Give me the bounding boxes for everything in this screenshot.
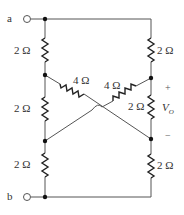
terminal-a	[24, 16, 31, 23]
wire-diag-right-a	[136, 78, 151, 86]
wire-crossover-hop	[92, 105, 102, 110]
label-resistor-left-mid: 2 Ω	[14, 103, 30, 114]
node-left-upper	[43, 73, 47, 77]
node-left-lower	[43, 139, 47, 143]
label-resistor-right-mid: 2 Ω	[128, 101, 144, 112]
resistor-right-top	[148, 38, 154, 62]
label-resistor-left-top: 2 Ω	[14, 45, 30, 56]
node-right-lower	[149, 137, 153, 141]
resistor-right-bot	[148, 154, 154, 178]
resistor-left-mid	[42, 97, 48, 121]
vo-plus-sign: +	[165, 83, 171, 93]
vo-label: VO	[162, 102, 174, 116]
node-left-top	[43, 17, 47, 21]
vo-symbol: V	[162, 101, 169, 113]
wire-diag-right-b	[102, 101, 113, 107]
node-right-upper	[149, 76, 153, 80]
terminal-b	[24, 194, 31, 201]
label-resistor-left-bot: 2 Ω	[14, 159, 30, 170]
terminal-a-label: a	[7, 13, 12, 24]
label-resistor-right-top: 2 Ω	[157, 45, 173, 56]
node-left-bottom	[43, 195, 47, 199]
resistor-left-top	[42, 38, 48, 62]
label-resistor-diag-right: 4 Ω	[104, 80, 120, 91]
wire-diag-right-c	[45, 110, 92, 141]
vo-subscript: O	[169, 108, 174, 116]
label-resistor-right-bot: 2 Ω	[157, 160, 173, 171]
resistor-left-bot	[42, 153, 48, 177]
vo-minus-sign: −	[165, 131, 171, 141]
wire-diag-left-a	[45, 75, 60, 84]
label-resistor-diag-left: 4 Ω	[73, 75, 89, 86]
terminal-b-label: b	[7, 191, 13, 202]
resistor-right-mid	[148, 95, 154, 119]
